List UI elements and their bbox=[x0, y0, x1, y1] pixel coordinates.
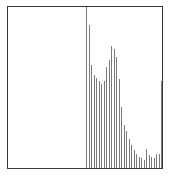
bar bbox=[131, 145, 132, 168]
bar bbox=[149, 155, 150, 168]
bar bbox=[119, 79, 120, 168]
chart-frame bbox=[7, 6, 163, 169]
bar bbox=[154, 158, 155, 168]
bar bbox=[139, 157, 140, 168]
bar bbox=[111, 46, 112, 168]
bar bbox=[136, 154, 137, 168]
bar bbox=[104, 81, 105, 168]
bar bbox=[134, 150, 135, 168]
bar bbox=[109, 60, 110, 168]
bar bbox=[99, 81, 100, 168]
bar bbox=[91, 65, 92, 168]
bar bbox=[106, 67, 107, 168]
bar bbox=[114, 49, 115, 168]
bar bbox=[146, 149, 147, 168]
bar bbox=[116, 57, 117, 168]
bar bbox=[144, 160, 145, 168]
bar bbox=[124, 125, 125, 168]
bar bbox=[89, 25, 90, 168]
bar bbox=[101, 84, 102, 168]
bar bbox=[121, 107, 122, 168]
bar bbox=[159, 154, 160, 168]
bar bbox=[126, 131, 127, 168]
bar bbox=[86, 7, 87, 168]
bar bbox=[151, 157, 152, 168]
bar bbox=[96, 78, 97, 168]
bar bbox=[156, 154, 157, 168]
bar bbox=[141, 158, 142, 168]
bar bbox=[161, 81, 162, 168]
bar bbox=[94, 75, 95, 168]
bar bbox=[129, 139, 130, 168]
